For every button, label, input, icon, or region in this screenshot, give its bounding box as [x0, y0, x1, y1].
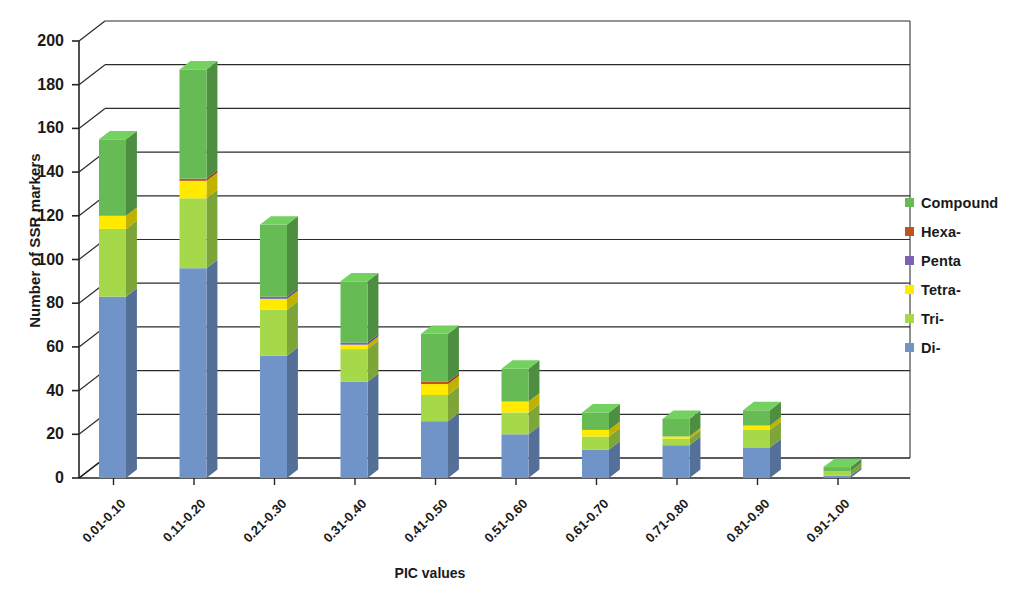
y-tick-label: 80: [16, 295, 64, 311]
legend-swatch-icon: [905, 285, 914, 294]
bar-column: [824, 459, 862, 478]
y-tick-label: 200: [16, 33, 64, 49]
y-tick-label: 140: [16, 164, 64, 180]
legend-label: Tetra-: [921, 282, 961, 298]
legend-swatch-icon: [905, 314, 914, 323]
legend-label: Compound: [921, 195, 998, 211]
y-tick-label: 20: [16, 426, 64, 442]
legend-label: Tri-: [921, 311, 944, 327]
bar-column: [260, 216, 298, 478]
legend-swatch-icon: [905, 256, 914, 265]
chart-figure: Number of SSR markers 200180160140120100…: [0, 0, 1031, 596]
y-tick-label: 100: [16, 252, 64, 268]
legend-swatch-icon: [905, 227, 914, 236]
y-tick-label: 0: [16, 470, 64, 486]
legend-swatch-icon: [905, 343, 914, 352]
legend-label: Penta: [921, 253, 961, 269]
legend-item[interactable]: Hexa-: [905, 217, 1029, 246]
y-tick-label: 40: [16, 383, 64, 399]
legend-label: Di-: [921, 340, 941, 356]
bar-column: [502, 360, 540, 478]
y-tick-label: 120: [16, 208, 64, 224]
legend-swatch-icon: [905, 198, 914, 207]
bar-column: [99, 131, 137, 478]
y-tick-label: 180: [16, 77, 64, 93]
bar-column: [421, 325, 459, 478]
bar-column: [743, 402, 781, 478]
legend-item[interactable]: Tetra-: [905, 275, 1029, 304]
bar-column: [582, 404, 620, 478]
y-tick-label: 60: [16, 339, 64, 355]
bar-series-group: [99, 61, 861, 478]
y-tick-label: 160: [16, 120, 64, 136]
legend-item[interactable]: Compound: [905, 188, 1029, 217]
legend-item[interactable]: Tri-: [905, 304, 1029, 333]
x-axis-title: PIC values: [300, 565, 560, 581]
legend-item[interactable]: Di-: [905, 333, 1029, 362]
bar-column: [663, 411, 701, 478]
chart-legend: CompoundHexa-PentaTetra-Tri-Di-: [905, 188, 1029, 362]
legend-label: Hexa-: [921, 224, 961, 240]
bar-column: [180, 61, 218, 478]
bar-column: [341, 273, 379, 478]
legend-item[interactable]: Penta: [905, 246, 1029, 275]
